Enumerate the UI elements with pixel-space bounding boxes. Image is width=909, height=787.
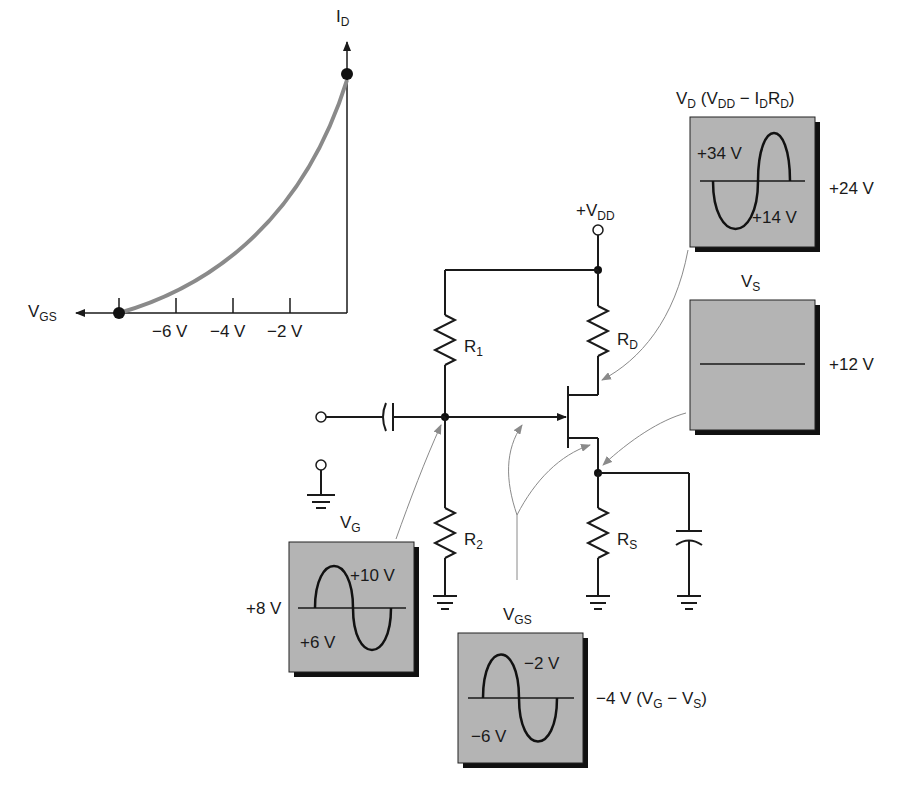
scope-vg xyxy=(289,542,419,677)
input-capacitor xyxy=(383,403,386,431)
vdd-label: +VDD xyxy=(576,202,615,222)
tick-label-6: −6 V xyxy=(152,323,187,340)
resistor-rs xyxy=(588,508,608,558)
transfer-curve-chart xyxy=(76,42,353,319)
idss-point xyxy=(341,68,353,80)
vdd-terminal xyxy=(593,225,603,235)
resistor-rd xyxy=(588,306,608,356)
pointer-lines xyxy=(396,250,688,580)
vd-peak-low: +14 V xyxy=(752,209,797,226)
id-axis-label: ID xyxy=(336,8,349,28)
scope-vgs xyxy=(458,633,588,768)
input-terminal xyxy=(316,412,326,422)
r2-label: R2 xyxy=(464,531,483,551)
vs-scope-title: VS xyxy=(741,273,760,293)
vd-scope-title: VD (VDD − IDRD) xyxy=(676,90,795,110)
vg-peak-high: +10 V xyxy=(350,567,395,584)
vd-dc-level: +24 V xyxy=(829,180,874,197)
ground-terminal xyxy=(316,460,326,470)
vg-peak-low: +6 V xyxy=(300,634,335,651)
tick-label-2: −2 V xyxy=(267,323,302,340)
circuit-diagram xyxy=(0,0,909,787)
scope-vd xyxy=(690,117,820,252)
vd-peak-high: +34 V xyxy=(697,145,742,162)
rs-label: RS xyxy=(617,531,637,551)
vgs-scope-title: VGS xyxy=(503,606,532,626)
vgs-dc-level: −4 V (VG − VS) xyxy=(596,690,707,710)
vgs-peak-high: −2 V xyxy=(524,655,559,672)
vgs-off-point xyxy=(113,307,125,319)
vgs-axis-label: VGS xyxy=(28,303,57,323)
vg-dc-level: +8 V xyxy=(246,600,281,617)
resistor-r1 xyxy=(435,315,455,365)
vgs-peak-low: −6 V xyxy=(471,728,506,745)
r1-label: R1 xyxy=(464,338,483,358)
resistor-r2 xyxy=(435,508,455,558)
tick-label-4: −4 V xyxy=(210,323,245,340)
scope-vs xyxy=(690,300,820,435)
vs-dc-level: +12 V xyxy=(829,356,874,373)
vg-scope-title: VG xyxy=(340,514,361,534)
rd-label: RD xyxy=(617,331,638,351)
transfer-curve xyxy=(119,80,347,313)
